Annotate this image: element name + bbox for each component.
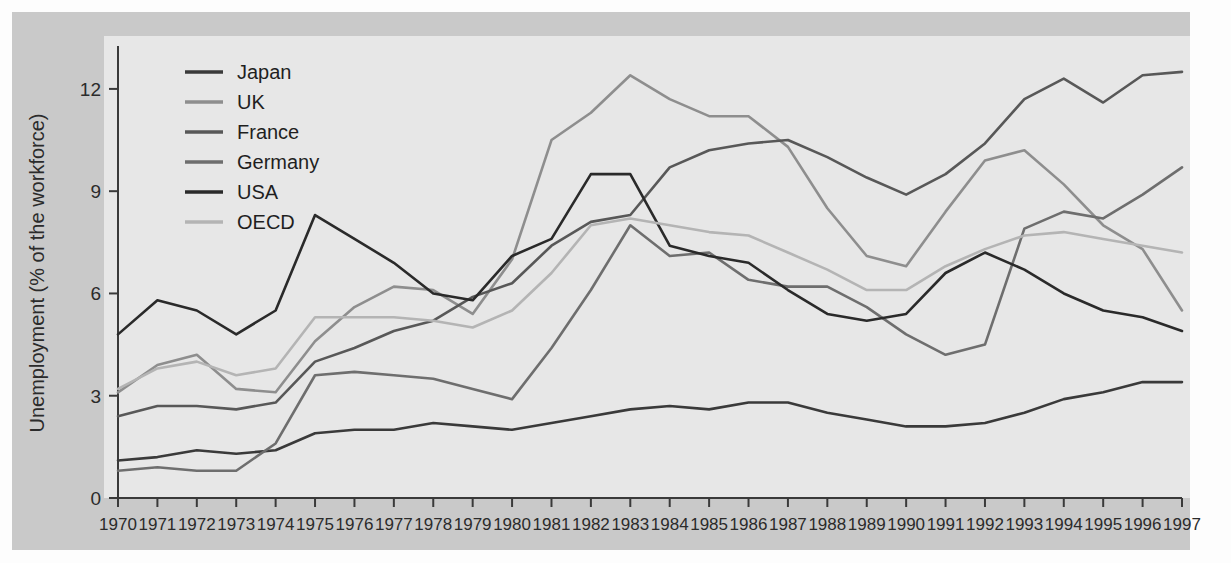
x-axis-tick-label: 1972 [178, 515, 216, 534]
y-axis-tick-label: 6 [90, 283, 101, 304]
legend-label-japan: Japan [237, 61, 292, 83]
legend-label-france: France [237, 121, 299, 143]
x-axis-tick-label: 1983 [611, 515, 649, 534]
legend-label-oecd: OECD [237, 211, 295, 233]
x-axis-tick-label: 1994 [1045, 515, 1083, 534]
x-axis-tick-label: 1978 [414, 515, 452, 534]
y-axis-tick-label: 3 [90, 386, 101, 407]
legend-label-uk: UK [237, 91, 265, 113]
x-axis-tick-label: 1982 [572, 515, 610, 534]
x-axis-tick-label: 1970 [99, 515, 137, 534]
x-axis-tick-label: 1985 [690, 515, 728, 534]
legend-label-usa: USA [237, 181, 279, 203]
y-axis-tick-label: 12 [80, 79, 101, 100]
x-axis-tick-label: 1987 [769, 515, 807, 534]
series-line-japan [118, 382, 1182, 460]
y-axis-title: Unemployment (% of the workforce) [26, 113, 48, 432]
x-axis-tick-label: 1993 [1005, 515, 1043, 534]
y-axis-tick-label: 9 [90, 181, 101, 202]
x-axis-tick-label: 1976 [336, 515, 374, 534]
x-axis-tick-label: 1984 [651, 515, 689, 534]
chart-legend: JapanUKFranceGermanyUSAOECD [185, 61, 319, 233]
x-axis-tick-label: 1973 [217, 515, 255, 534]
x-axis-tick-label: 1977 [375, 515, 413, 534]
x-axis-tick-label: 1979 [454, 515, 492, 534]
axes-group: 0369121970197119721973197419751976197719… [80, 46, 1201, 534]
y-axis-tick-label: 0 [90, 488, 101, 509]
x-axis-tick-label: 1991 [927, 515, 965, 534]
x-axis-tick-label: 1997 [1163, 515, 1201, 534]
x-axis-tick-label: 1971 [138, 515, 176, 534]
x-axis-tick-label: 1980 [493, 515, 531, 534]
y-axis-title-group: Unemployment (% of the workforce) [26, 113, 48, 432]
x-axis-tick-label: 1989 [848, 515, 886, 534]
line-chart: 0369121970197119721973197419751976197719… [0, 0, 1231, 563]
x-axis-tick-label: 1990 [887, 515, 925, 534]
x-axis-tick-label: 1988 [808, 515, 846, 534]
x-axis-tick-label: 1974 [257, 515, 295, 534]
x-axis-tick-label: 1981 [533, 515, 571, 534]
x-axis-tick-label: 1992 [966, 515, 1004, 534]
x-axis-tick-label: 1996 [1124, 515, 1162, 534]
legend-label-germany: Germany [237, 151, 319, 173]
x-axis-tick-label: 1986 [730, 515, 768, 534]
x-axis-tick-label: 1995 [1084, 515, 1122, 534]
x-axis-tick-label: 1975 [296, 515, 334, 534]
figure-container: 0369121970197119721973197419751976197719… [0, 0, 1231, 563]
